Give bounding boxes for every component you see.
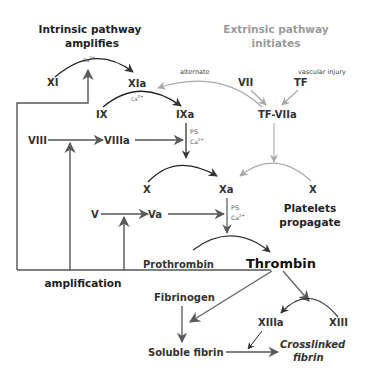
- alternate-label: alternate: [180, 68, 210, 76]
- arrow-x-to-xa: [148, 165, 217, 182]
- arrow-xi-to-xia: [55, 59, 133, 77]
- node-thrombin: Thrombin: [246, 256, 316, 271]
- ps-label-ixa: PS: [190, 128, 198, 136]
- ca-label-xi: Ca2+: [83, 55, 95, 63]
- node-xiii: XIII: [329, 317, 348, 328]
- platelets-title-line1: Platelets: [284, 202, 337, 214]
- node-x-left: X: [143, 184, 151, 195]
- node-tf: TF: [294, 77, 308, 88]
- arrow-x-right-to-xa: [240, 163, 311, 181]
- node-ix: IX: [96, 109, 108, 120]
- node-x-right: X: [309, 184, 317, 195]
- vascular-injury-label: vascular injury: [298, 68, 346, 76]
- node-viii: VIII: [28, 135, 47, 146]
- node-xia: XIa: [128, 78, 146, 89]
- ca-label-xa: Ca2+: [231, 213, 245, 221]
- node-xa: Xa: [219, 184, 233, 195]
- extrinsic-title-line2: initiates: [252, 37, 301, 49]
- amplification-label: amplification: [44, 277, 121, 289]
- platelets-title-line2: propagate: [279, 216, 340, 228]
- node-xi: XI: [47, 77, 58, 88]
- node-fibrinogen: Fibrinogen: [154, 292, 215, 303]
- node-va: Va: [148, 209, 162, 220]
- node-crosslinked-line1: Crosslinked: [280, 339, 346, 350]
- intrinsic-title-line1: Intrinsic pathway: [39, 23, 142, 35]
- node-viiia: VIIIa: [104, 135, 130, 146]
- node-soluble-fibrin: Soluble fibrin: [148, 347, 224, 358]
- node-tf-viia: TF-VIIa: [258, 109, 297, 120]
- ca-label-ix: Ca2+: [131, 94, 143, 102]
- coagulation-cascade-diagram: Intrinsic pathway amplifies Extrinsic pa…: [0, 0, 371, 378]
- node-crosslinked-line2: fibrin: [293, 352, 324, 363]
- node-prothrombin: Prothrombin: [143, 259, 214, 270]
- arrow-vii-to-tfviia: [251, 90, 266, 105]
- arrow-thrombin-to-xiii: [283, 271, 309, 301]
- node-xiiia: XIIIa: [258, 317, 284, 328]
- arrow-tf-to-tfviia: [282, 90, 298, 105]
- node-vii: VII: [238, 77, 253, 88]
- node-ixa: IXa: [176, 109, 194, 120]
- ca-label-ixa: Ca2+: [190, 137, 204, 145]
- extrinsic-title-line1: Extrinsic pathway: [223, 23, 329, 35]
- arrow-prothrombin-to-thrombin: [193, 236, 270, 252]
- arrow-xiii-to-xiiia: [281, 298, 338, 317]
- intrinsic-title-line2: amplifies: [65, 37, 119, 49]
- amplification-left-line: [17, 70, 88, 270]
- ps-label-xa: PS: [231, 204, 239, 212]
- node-v: V: [91, 209, 99, 220]
- arrow-xiiia-to-crosslink: [248, 331, 262, 349]
